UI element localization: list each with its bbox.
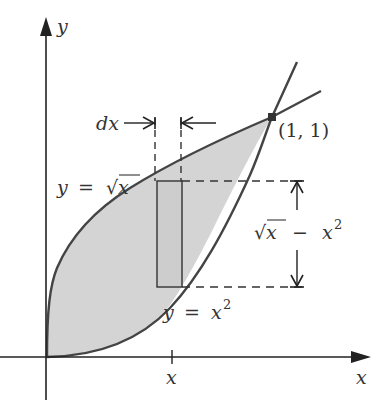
- sqrt-curve-label-eq: =: [78, 176, 94, 198]
- height-label-base: x: [322, 221, 333, 243]
- height-label-minus: −: [292, 221, 308, 243]
- height-label-exp: 2: [334, 217, 342, 232]
- intersection-label: (1, 1): [278, 119, 329, 141]
- dx-label: dx: [96, 112, 119, 134]
- x-axis-arrow-icon: [351, 351, 371, 363]
- height-label-sqrt: √x: [254, 221, 277, 243]
- square-curve-label-eq: =: [184, 301, 200, 323]
- x-tick-label: x: [166, 366, 177, 388]
- strip-rectangle: [157, 181, 182, 287]
- sqrt-curve-label-y: y: [56, 176, 68, 198]
- sqrt-curve-label-fn: √x: [106, 176, 129, 198]
- square-curve-label-base: x: [211, 301, 222, 323]
- x-axis-label: x: [356, 366, 367, 388]
- intersection-point-marker: [268, 113, 276, 121]
- y-axis-label: y: [56, 15, 68, 37]
- square-curve-label-y: y: [162, 301, 174, 323]
- y-axis-arrow-icon: [40, 17, 52, 36]
- square-curve-label-exp: 2: [223, 297, 231, 312]
- area-between-curves-diagram: y x x dx (1, 1) y = √x y = x 2 √x − x 2: [0, 0, 372, 410]
